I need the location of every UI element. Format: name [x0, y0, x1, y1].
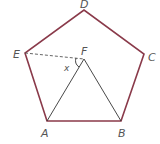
angle-label-x: x	[63, 63, 70, 73]
pentagon-diagram: D E C F A B x	[0, 0, 160, 144]
label-e: E	[13, 48, 20, 61]
dashed-segment-ef	[25, 53, 84, 59]
label-c: C	[148, 51, 156, 64]
label-b: B	[118, 127, 126, 140]
label-f: F	[81, 45, 88, 58]
angle-x-arc	[76, 58, 79, 67]
triangle-abf	[47, 59, 121, 121]
label-d: D	[80, 0, 88, 11]
label-a: A	[40, 127, 49, 140]
pentagon-abcde	[25, 10, 144, 121]
